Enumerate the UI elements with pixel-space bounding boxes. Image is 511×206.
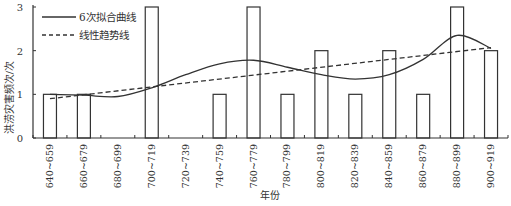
y-tick-label: 1	[17, 89, 23, 100]
x-tick-label: 700~719	[146, 144, 157, 188]
bar	[485, 51, 498, 138]
x-tick-label: 880~899	[451, 144, 462, 188]
bar	[213, 94, 226, 138]
bar	[77, 94, 90, 138]
bar	[349, 94, 362, 138]
linear-trend-line	[50, 48, 491, 99]
x-tick-label: 800~819	[315, 144, 326, 188]
bar	[315, 51, 328, 138]
bar	[145, 7, 158, 138]
x-tick-label: 640~659	[44, 144, 55, 188]
y-tick-label: 2	[17, 46, 23, 57]
bar	[247, 7, 260, 138]
x-tick-label: 900~919	[485, 144, 496, 188]
legend-label: 6次拟合曲线	[79, 11, 137, 23]
x-tick-label: 840~859	[383, 144, 394, 188]
x-tick-label: 760~779	[248, 144, 259, 188]
x-axis-label: 年份	[260, 189, 280, 201]
x-tick-label: 860~879	[417, 144, 428, 188]
bar	[417, 94, 430, 138]
x-tick-label: 820~839	[349, 144, 360, 188]
y-tick-label: 0	[17, 133, 23, 144]
x-tick-label: 660~679	[78, 144, 89, 188]
bar	[383, 51, 396, 138]
poly6-fit-curve	[50, 35, 491, 97]
x-tick-label: 740~759	[214, 144, 225, 188]
flood-frequency-chart: 0123640~659660~679680~699700~719720~7397…	[0, 0, 511, 206]
y-axis-label: 洪涝灾害频次/次	[3, 61, 15, 134]
bar	[281, 94, 294, 138]
x-tick-label: 780~799	[281, 144, 292, 188]
x-tick-label: 680~699	[112, 144, 123, 188]
bar	[43, 94, 56, 138]
y-tick-label: 3	[17, 2, 23, 13]
x-tick-label: 720~739	[180, 144, 191, 188]
bar	[451, 7, 464, 138]
legend-label: 线性趋势线	[79, 29, 130, 41]
